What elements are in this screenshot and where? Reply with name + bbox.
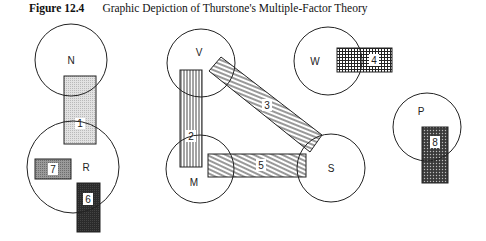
task-2: 2: [180, 70, 202, 167]
task-8: 8: [422, 127, 448, 183]
task-6: 6: [77, 183, 100, 232]
task-5: 5: [208, 154, 306, 177]
svg-text:V: V: [196, 47, 203, 58]
thurstone-diagram: 1 2 3 4 5 6 7 8 N R: [0, 0, 486, 241]
svg-text:W: W: [310, 56, 320, 67]
svg-text:4: 4: [371, 55, 377, 66]
svg-text:6: 6: [85, 194, 91, 205]
svg-text:N: N: [67, 55, 74, 66]
ability-S: S: [297, 134, 365, 202]
svg-text:P: P: [418, 106, 425, 117]
task-4: 4: [337, 48, 392, 72]
svg-text:1: 1: [77, 118, 83, 129]
task-3: 3: [209, 57, 322, 152]
svg-text:M: M: [190, 177, 198, 188]
task-1: 1: [64, 76, 96, 144]
svg-text:R: R: [82, 162, 89, 173]
svg-text:S: S: [328, 163, 335, 174]
svg-text:8: 8: [432, 137, 438, 148]
svg-text:5: 5: [258, 160, 264, 171]
svg-text:7: 7: [50, 164, 56, 175]
task-7: 7: [35, 159, 71, 179]
svg-text:3: 3: [264, 100, 270, 111]
